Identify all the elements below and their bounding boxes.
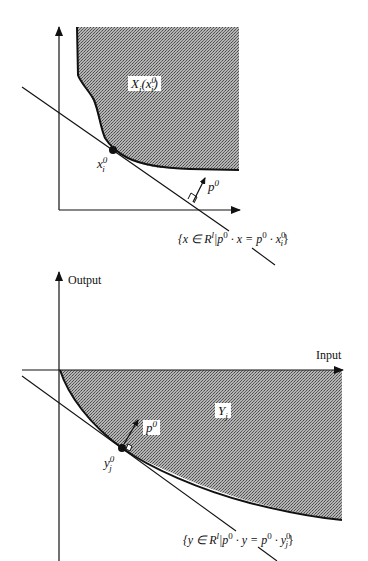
profit-hyperplane-tail [258,547,277,561]
label-sup: 0 [153,419,158,429]
label-base: X [131,76,139,91]
point-label-yj0: y0j [104,456,112,469]
production-set-label: Yj [215,403,231,418]
bottom-panel [22,272,343,561]
set-close: } [283,232,289,246]
top-panel [22,27,275,265]
input-axis-label: Input [316,349,341,361]
label-sup: 0 [215,178,220,188]
budget-hyperplane-label: {x ∈ Rl|p0 · x = p0 · x0i} [178,233,289,245]
set-open: {x ∈ R [178,232,211,246]
label-sub: j [225,411,228,421]
price-vector [193,178,205,202]
label-sub: j [109,463,112,473]
set-close: } [288,533,294,547]
price-label-bottom: p0 [143,420,160,435]
label-paren: ) [154,76,158,91]
set-mid: |p [219,533,228,547]
consumption-set-label: Xi(x0i) [128,76,161,91]
diagram-canvas [0,0,368,561]
point-label-xi0: x0i [97,157,105,170]
set-mid: |p [214,232,223,246]
set-mid: · y = p [233,533,267,547]
label-sub: i [102,164,105,174]
consumption-set-region [77,27,239,170]
set-open: {y ∈ R [183,533,216,547]
set-mid: · x = p [228,232,262,246]
set-mid: · y [272,533,286,547]
production-set-region [60,370,342,520]
output-axis-label: Output [68,274,101,286]
tangency-point [109,146,117,154]
profit-hyperplane-label: {y ∈ Rl|p0 · y = p0 · y0j} [183,534,294,546]
optimal-production-point [118,444,126,452]
price-label-top: p0 [208,180,219,193]
budget-hyperplane-tail [252,248,275,265]
set-mid: · x [267,232,281,246]
